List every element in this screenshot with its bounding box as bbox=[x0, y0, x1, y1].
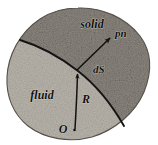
surface-element-label: dS bbox=[93, 63, 105, 75]
solid-region-label: solid bbox=[79, 17, 104, 31]
fluid-solid-interface-figure: solid fluid pn dS R O bbox=[0, 0, 158, 145]
origin-point bbox=[73, 129, 76, 132]
normal-vector-label: pn bbox=[114, 27, 127, 39]
radius-vector-label: R bbox=[81, 92, 90, 106]
diagram-canvas: solid fluid pn dS R O bbox=[0, 0, 158, 145]
origin-label: O bbox=[59, 122, 68, 136]
fluid-region-label: fluid bbox=[30, 88, 54, 102]
